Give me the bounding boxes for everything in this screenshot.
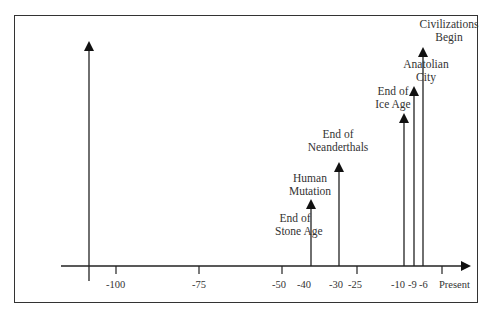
label-end-of-stone-age: End of Stone Age bbox=[275, 212, 315, 238]
tick-label-6: -6 bbox=[419, 279, 428, 290]
vertical-arrowhead-icon bbox=[84, 41, 94, 51]
tick-label-10: -10 bbox=[391, 279, 405, 290]
arrowhead-icon bbox=[418, 47, 428, 57]
tick-label-25: -25 bbox=[348, 279, 362, 290]
tick-label-100: -100 bbox=[106, 279, 125, 290]
tick-label-9: -9 bbox=[408, 279, 417, 290]
label-anatolian-city: Anatolian City bbox=[398, 58, 454, 84]
label-civilizations-begin: Civilizations Begin bbox=[416, 18, 482, 44]
label-end-of-neanderthals: End of Neanderthals bbox=[300, 128, 376, 154]
arrowhead-icon bbox=[306, 199, 316, 209]
axis-ticks bbox=[116, 266, 442, 274]
arrowhead-icon bbox=[334, 162, 344, 172]
tick-label-75: -75 bbox=[192, 279, 206, 290]
timeline-graphic bbox=[0, 0, 494, 318]
tick-label-present: Present bbox=[439, 279, 470, 290]
label-end-of-ice-age: End of Ice Age bbox=[370, 85, 416, 111]
tick-label-40: -40 bbox=[297, 279, 311, 290]
tick-label-30: -30 bbox=[329, 279, 343, 290]
axis-arrowhead-icon bbox=[461, 261, 471, 271]
label-human-mutation: Human Mutation bbox=[285, 172, 335, 198]
tick-label-50: -50 bbox=[272, 279, 286, 290]
arrowhead-icon bbox=[399, 113, 409, 123]
